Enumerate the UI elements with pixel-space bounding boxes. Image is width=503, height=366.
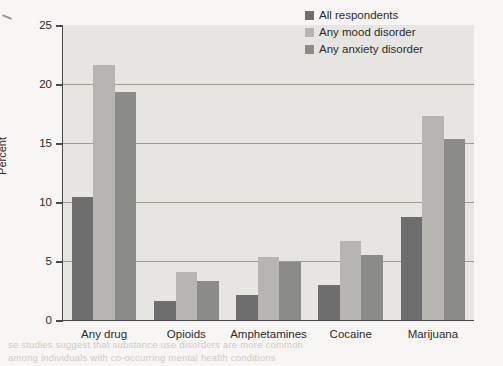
bar [422, 116, 444, 320]
y-tick-mark-10 [56, 202, 63, 204]
y-tick-label-10: 10 [39, 196, 52, 208]
legend-label-2: Any anxiety disorder [319, 43, 423, 55]
page-bleed-line-1: se studies suggest that substance use di… [8, 339, 503, 350]
page-bleed-line-2: among individuals with co-occurring ment… [8, 352, 503, 363]
y-tick-label-5: 5 [46, 255, 52, 267]
chart-figure: 0510152025 Percent Any drugOpioidsAmphet… [0, 0, 503, 366]
bar [115, 92, 137, 320]
legend-item-0: All respondents [305, 7, 423, 23]
bar [279, 262, 301, 320]
legend-item-2: Any anxiety disorder [305, 41, 423, 57]
gridline-20 [63, 84, 474, 85]
y-tick-label-0: 0 [46, 314, 52, 326]
bar [318, 285, 340, 320]
legend-label-0: All respondents [319, 9, 398, 21]
bar [401, 217, 423, 320]
y-tick-label-25: 25 [39, 19, 52, 31]
y-tick-mark-0 [56, 320, 63, 322]
bar [236, 295, 258, 320]
x-axis-label-c2: Amphetamines [230, 328, 307, 340]
bar [258, 257, 280, 320]
x-axis-label-c0: Any drug [81, 328, 127, 340]
plot-area [63, 25, 474, 321]
y-axis-title: Percent [0, 137, 8, 175]
bar [93, 65, 115, 320]
y-tick-mark-25 [56, 25, 63, 27]
bar [176, 272, 198, 320]
bar [340, 241, 362, 320]
bar [72, 197, 94, 320]
y-tick-label-20: 20 [39, 78, 52, 90]
bar [361, 255, 383, 320]
y-tick-mark-5 [56, 261, 63, 263]
legend-item-1: Any mood disorder [305, 24, 423, 40]
bar [444, 139, 466, 320]
x-axis-label-c1: Opioids [167, 328, 206, 340]
y-tick-label-15: 15 [39, 137, 52, 149]
x-axis-label-c3: Cocaine [330, 328, 372, 340]
y-tick-mark-15 [56, 143, 63, 145]
x-axis-label-c4: Marijuana [408, 328, 459, 340]
bar [154, 301, 176, 320]
y-tick-mark-20 [56, 84, 63, 86]
legend-swatch-icon-2 [305, 45, 314, 54]
legend-swatch-icon-0 [305, 11, 314, 20]
chart-legend: All respondentsAny mood disorderAny anxi… [301, 4, 427, 62]
legend-label-1: Any mood disorder [319, 26, 416, 38]
legend-swatch-icon-1 [305, 28, 314, 37]
page-edge-artifact [2, 14, 12, 20]
bar [197, 281, 219, 320]
